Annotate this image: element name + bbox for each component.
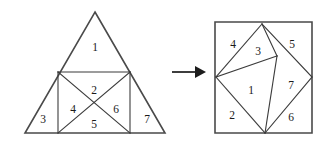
triangle-region-label-3: 3 xyxy=(40,113,46,125)
triangle-region-label-2: 2 xyxy=(91,84,97,96)
square-region-label-7: 7 xyxy=(288,79,294,91)
square-region-label-3: 3 xyxy=(255,45,261,57)
square-region-label-2: 2 xyxy=(229,109,235,121)
triangle-region-label-6: 6 xyxy=(113,103,119,115)
square-region-label-5: 5 xyxy=(289,38,295,50)
right-figure-square: 4 3 5 1 7 2 6 xyxy=(215,22,312,133)
dissection-svg: 1 2 3 4 5 6 7 4 3 5 1 xyxy=(0,0,329,152)
triangle-region-label-5: 5 xyxy=(91,118,97,130)
square-region-label-4: 4 xyxy=(230,38,236,50)
triangle-region-label-7: 7 xyxy=(144,113,150,125)
triangle-region-label-1: 1 xyxy=(92,41,98,53)
dissection-figure: 1 2 3 4 5 6 7 4 3 5 1 xyxy=(0,0,329,152)
square-region-label-1: 1 xyxy=(248,84,254,96)
triangle-region-label-4: 4 xyxy=(70,103,76,115)
square-region-label-6: 6 xyxy=(288,111,294,123)
